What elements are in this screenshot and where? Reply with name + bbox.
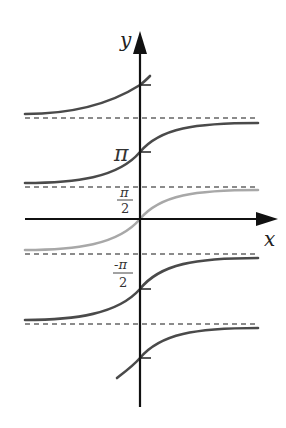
half-pi-label: π 2 [117, 185, 133, 216]
pi-label: π [113, 141, 129, 166]
x-axis-label: x [264, 227, 275, 251]
x-axis-arrow-icon [256, 212, 278, 226]
half-pi-numerator: π [119, 185, 129, 200]
half-pi-denominator: 2 [121, 201, 129, 216]
branch-curve-top [25, 76, 150, 114]
neg-half-pi-numerator: -π [114, 257, 127, 272]
y-axis-arrow-icon [133, 31, 147, 54]
neg-half-pi-denominator: 2 [119, 275, 127, 290]
branch-curve-pi [25, 123, 258, 183]
y-axis-label: y [119, 28, 132, 52]
branch-curve-bottom [117, 328, 258, 378]
neg-half-pi-label: -π 2 [113, 257, 133, 290]
arctan-branches-diagram: y x π π 2 -π 2 [0, 0, 286, 428]
